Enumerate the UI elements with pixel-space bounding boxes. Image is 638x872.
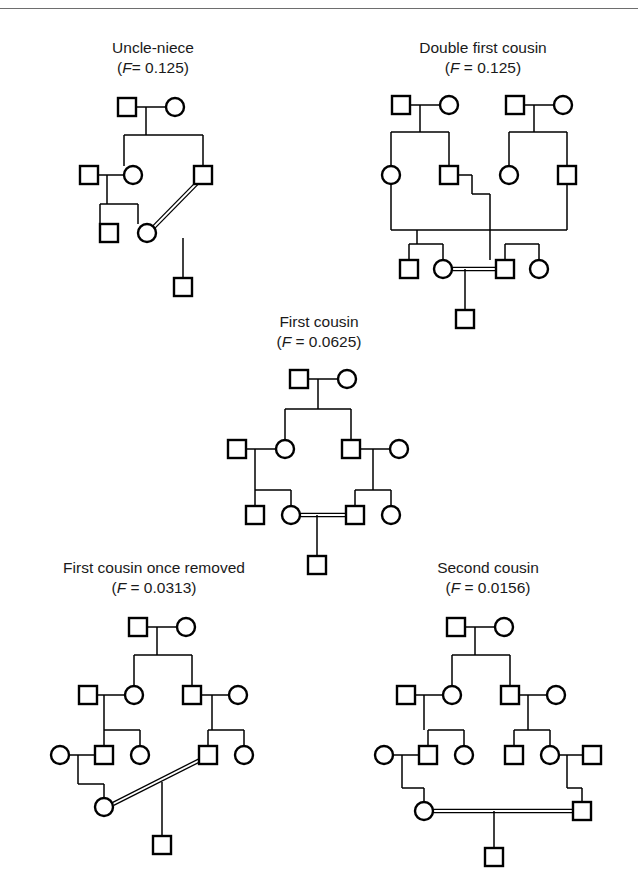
inbreeding-coefficient-label: (F = 0.0625) bbox=[194, 332, 444, 352]
panel-title: Second cousin bbox=[348, 558, 628, 578]
pedigree-male-symbol bbox=[400, 260, 418, 278]
pedigree-male-symbol bbox=[95, 746, 113, 764]
f-value-text: = 0.125) bbox=[460, 59, 522, 76]
pedigree-female-symbol bbox=[415, 802, 433, 820]
inbreeding-coefficient-label: (F= 0.125) bbox=[28, 58, 278, 78]
pedigree-male-symbol bbox=[501, 686, 519, 704]
pedigree-male-symbol bbox=[342, 440, 360, 458]
pedigree-male-symbol bbox=[79, 686, 97, 704]
pedigree-male-symbol bbox=[456, 310, 474, 328]
inbreeding-coefficient-label: (F = 0.0313) bbox=[14, 578, 294, 598]
consanguineous-mating-lines bbox=[433, 810, 573, 813]
pedigree-male-symbol bbox=[583, 746, 601, 764]
pedigree-female-symbol bbox=[338, 370, 356, 388]
pedigree-female-symbol bbox=[235, 746, 253, 764]
inbreeding-coefficient-label: (F = 0.125) bbox=[358, 58, 608, 78]
pedigree-female-symbol bbox=[166, 98, 184, 116]
pedigree-male-symbol bbox=[397, 686, 415, 704]
panel-caption-double-first-cousin: Double first cousin(F = 0.125) bbox=[358, 38, 608, 78]
page-top-rule bbox=[0, 8, 638, 9]
pedigree-lines bbox=[237, 379, 391, 556]
pedigree-female-symbol bbox=[282, 506, 300, 524]
pedigree-canvas-holder bbox=[28, 84, 278, 304]
pedigree-female-symbol bbox=[51, 746, 69, 764]
pedigree-male-symbol bbox=[558, 166, 576, 184]
pedigree-panel-first-cousin-once-removed: First cousin once removed(F = 0.0313) bbox=[14, 558, 294, 860]
f-value-text: = 0.0156) bbox=[460, 579, 530, 596]
pedigree-female-symbol bbox=[382, 506, 400, 524]
pedigree-male-symbol bbox=[80, 166, 98, 184]
pedigree-lines bbox=[60, 627, 244, 836]
f-symbol: F bbox=[122, 59, 131, 76]
inbreeding-coefficient-label: (F = 0.0156) bbox=[348, 578, 628, 598]
consanguineous-mating-line bbox=[113, 758, 208, 806]
pedigree-female-symbol bbox=[138, 224, 156, 242]
pedigree-female-symbol bbox=[541, 746, 559, 764]
pedigree-male-symbol bbox=[183, 686, 201, 704]
panel-title: Uncle-niece bbox=[28, 38, 278, 58]
pedigree-male-symbol bbox=[440, 166, 458, 184]
f-symbol: F bbox=[282, 333, 291, 350]
pedigree-female-symbol bbox=[455, 746, 473, 764]
f-value-text: = 0.0313) bbox=[126, 579, 196, 596]
pedigree-panel-second-cousin: Second cousin(F = 0.0156) bbox=[348, 558, 628, 872]
pedigree-female-symbol bbox=[229, 686, 247, 704]
pedigree-male-symbol bbox=[153, 836, 171, 854]
f-value-text: = 0.125) bbox=[132, 59, 189, 76]
pedigree-canvas-holder bbox=[14, 604, 294, 860]
f-symbol: F bbox=[450, 59, 459, 76]
panel-caption-first-cousin: First cousin(F = 0.0625) bbox=[194, 312, 444, 352]
pedigree-male-symbol bbox=[485, 848, 503, 866]
pedigree-female-symbol bbox=[495, 618, 513, 636]
pedigree-uncle-niece bbox=[78, 84, 228, 304]
pedigree-male-symbol bbox=[308, 556, 326, 574]
consanguineous-mating-lines bbox=[112, 755, 208, 806]
pedigree-double-first-cousin bbox=[378, 84, 588, 334]
pedigree-male-symbol bbox=[496, 260, 514, 278]
panel-title: First cousin once removed bbox=[14, 558, 294, 578]
pedigree-female-symbol bbox=[125, 686, 143, 704]
pedigree-female-symbol bbox=[547, 686, 565, 704]
pedigree-female-symbol bbox=[500, 166, 518, 184]
f-symbol: F bbox=[451, 579, 460, 596]
pedigree-female-symbol bbox=[131, 746, 149, 764]
pedigree-male-symbol bbox=[174, 278, 192, 296]
pedigree-female-symbol bbox=[177, 618, 195, 636]
pedigree-female-symbol bbox=[375, 746, 393, 764]
pedigree-male-symbol bbox=[447, 618, 465, 636]
panel-title: Double first cousin bbox=[358, 38, 608, 58]
pedigree-male-symbol bbox=[506, 96, 524, 114]
panel-caption-second-cousin: Second cousin(F = 0.0156) bbox=[348, 558, 628, 598]
pedigree-female-symbol bbox=[390, 440, 408, 458]
pedigree-symbols bbox=[382, 96, 576, 328]
pedigree-canvas-holder bbox=[358, 84, 608, 334]
panel-title: First cousin bbox=[194, 312, 444, 332]
pedigree-second-cousin bbox=[371, 604, 606, 872]
pedigree-male-symbol bbox=[199, 746, 217, 764]
pedigree-canvas-holder bbox=[348, 604, 628, 872]
pedigree-male-symbol bbox=[118, 98, 136, 116]
pedigree-panel-double-first-cousin: Double first cousin(F = 0.125) bbox=[358, 38, 608, 334]
pedigree-male-symbol bbox=[392, 96, 410, 114]
pedigree-panel-first-cousin: First cousin(F = 0.0625) bbox=[194, 312, 444, 580]
pedigree-male-symbol bbox=[290, 370, 308, 388]
pedigree-male-symbol bbox=[194, 166, 212, 184]
pedigree-first-cousin-once-removed bbox=[47, 604, 262, 860]
pedigree-male-symbol bbox=[346, 506, 364, 524]
pedigree-female-symbol bbox=[382, 166, 400, 184]
pedigree-lines bbox=[391, 105, 567, 310]
pedigree-female-symbol bbox=[434, 260, 452, 278]
pedigree-female-symbol bbox=[530, 260, 548, 278]
consanguineous-mating-line bbox=[148, 178, 204, 235]
f-symbol: F bbox=[117, 579, 126, 596]
pedigree-male-symbol bbox=[573, 802, 591, 820]
pedigree-canvas-holder bbox=[194, 358, 444, 580]
pedigree-panel-uncle-niece: Uncle-niece(F= 0.125) bbox=[28, 38, 278, 304]
pedigree-male-symbol bbox=[228, 440, 246, 458]
pedigree-male-symbol bbox=[419, 746, 437, 764]
f-value-text: = 0.0625) bbox=[291, 333, 361, 350]
pedigree-male-symbol bbox=[129, 618, 147, 636]
pedigree-female-symbol bbox=[124, 166, 142, 184]
pedigree-first-cousin bbox=[224, 358, 414, 580]
pedigree-male-symbol bbox=[246, 506, 264, 524]
